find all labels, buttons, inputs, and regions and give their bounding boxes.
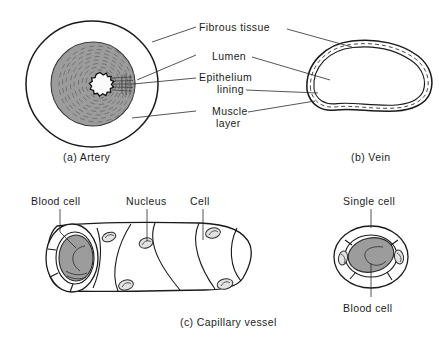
- figure-canvas: (a) Artery (b) Vein Fibrous tissu: [0, 0, 439, 354]
- capillary-blood-cell: [59, 235, 93, 281]
- artery-diagram: [26, 21, 158, 147]
- label-epithelium-line1: Epithelium: [199, 71, 252, 83]
- label-muscle-line2: layer: [216, 117, 241, 129]
- label-capillary-nucleus: Nucleus: [126, 195, 167, 207]
- capillary-caption: (c) Capillary vessel: [180, 316, 277, 328]
- blood-vessel-figure: (a) Artery (b) Vein Fibrous tissu: [0, 0, 439, 354]
- capillary-diagram: [46, 222, 251, 292]
- label-epithelium-line2: lining: [217, 83, 244, 95]
- label-capillary-blood-cell: Blood cell: [31, 195, 81, 207]
- vein-caption: (b) Vein: [351, 151, 390, 163]
- artery-caption: (a) Artery: [63, 151, 111, 163]
- label-single-cell: Single cell: [343, 195, 395, 207]
- vein-diagram: [307, 40, 432, 111]
- label-capillary-cell: Cell: [190, 195, 210, 207]
- label-muscle-line1: Muscle: [212, 105, 248, 117]
- label-single-cell-blood-cell: Blood cell: [343, 302, 393, 314]
- label-lumen: Lumen: [212, 50, 246, 62]
- label-fibrous-tissue: Fibrous tissue: [199, 21, 270, 33]
